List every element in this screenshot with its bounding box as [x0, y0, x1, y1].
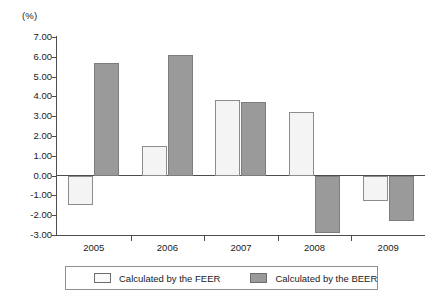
x-axis-tick-label: 2005 [57, 242, 131, 253]
x-axis-tick-label: 2006 [130, 242, 204, 253]
legend-item-beer: Calculated by the BEER [250, 273, 377, 284]
y-axis-tick-label: -2.00 [10, 209, 52, 220]
bar-2006-feer [142, 146, 167, 176]
x-axis-tick-label: 2007 [204, 242, 278, 253]
bar-2009-beer [389, 176, 414, 222]
y-axis-tick-label: -3.00 [10, 229, 52, 240]
x-axis-tick-label: 2008 [278, 242, 352, 253]
y-axis-tick-label: 7.00 [10, 31, 52, 42]
bar-2008-feer [289, 112, 314, 175]
legend-label-beer: Calculated by the BEER [275, 273, 377, 284]
y-axis-tick-label: 0.00 [10, 170, 52, 181]
bar-group [278, 37, 352, 235]
legend-item-feer: Calculated by the FEER [94, 273, 220, 284]
bar-2007-feer [215, 100, 240, 175]
bar-2005-feer [68, 176, 93, 206]
y-axis-tick-label: -1.00 [10, 189, 52, 200]
y-axis-tick-label: 5.00 [10, 71, 52, 82]
bar-group [131, 37, 205, 235]
bar-2009-feer [363, 176, 388, 202]
x-axis-tick [204, 236, 205, 241]
legend-label-feer: Calculated by the FEER [119, 273, 220, 284]
legend-swatch-beer-icon [250, 273, 267, 283]
bar-group [57, 37, 131, 235]
y-axis-tick-label: 3.00 [10, 110, 52, 121]
y-axis-tick-label: 2.00 [10, 130, 52, 141]
bar-group [351, 37, 425, 235]
x-axis-tick [351, 236, 352, 241]
bar-2005-beer [94, 63, 119, 176]
bar-group [204, 37, 278, 235]
bar-2006-beer [168, 55, 193, 176]
legend-swatch-feer-icon [94, 273, 111, 283]
bar-2007-beer [241, 102, 266, 175]
y-axis-tick-label: 4.00 [10, 90, 52, 101]
x-axis-line [57, 235, 425, 236]
y-axis-tick-label: 6.00 [10, 51, 52, 62]
x-axis-tick-label: 2009 [351, 242, 425, 253]
chart-legend: Calculated by the FEER Calculated by the… [65, 266, 378, 290]
x-axis-tick [131, 236, 132, 241]
chart-container: (%) 7.006.005.004.003.002.001.000.00-1.0… [0, 0, 443, 301]
x-axis-tick [278, 236, 279, 241]
y-axis-tick-label: 1.00 [10, 150, 52, 161]
y-axis-tick-group: 7.006.005.004.003.002.001.000.00-1.00-2.… [10, 0, 57, 301]
bar-2008-beer [315, 176, 340, 233]
plot-area [57, 37, 425, 235]
